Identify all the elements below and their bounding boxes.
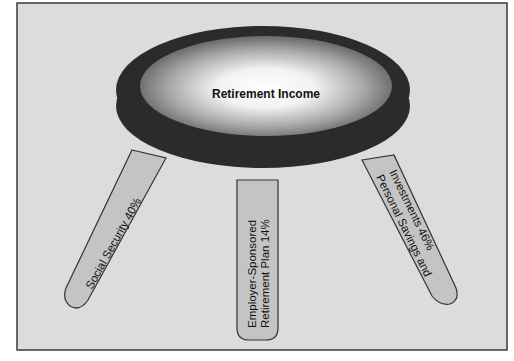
- diagram-stage: Social Security 40% Employer-Sponsored R…: [0, 0, 514, 361]
- leg-employer-plan: Employer-Sponsored Retirement Plan 14%: [237, 180, 278, 340]
- leg-label-employer-line2: Retirement Plan 14%: [259, 219, 271, 328]
- leg-label-employer-line1: Employer-Sponsored: [246, 220, 258, 328]
- seat-title: Retirement Income: [212, 87, 320, 101]
- stool-seat: Retirement Income: [116, 26, 410, 168]
